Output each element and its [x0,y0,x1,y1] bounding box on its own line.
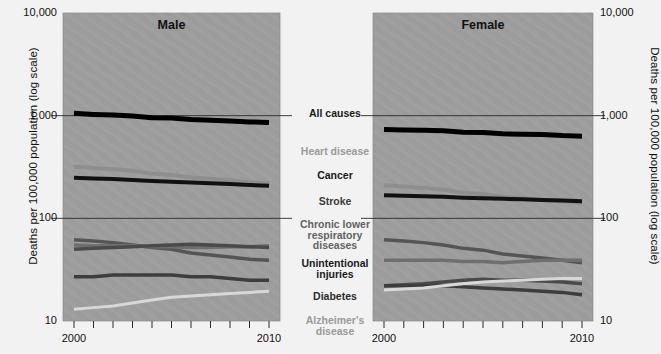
panel-title-female: Female [373,18,593,32]
y-tick-label-left-1000: 1,000 [2,109,57,121]
legend-label-heart-disease: Heart disease [283,146,387,157]
panel-title-male: Male [63,18,280,32]
legend-label-cancer: Cancer [283,170,387,181]
y-tick-label-right-10000: 10,000 [600,6,655,18]
legend-label-all-causes: All causes [283,108,387,119]
left-axis-title: Deaths per 100,000 population (log scale… [27,31,39,281]
legend-label-stroke: Stroke [283,196,387,207]
y-tick-label-right-10: 10 [600,314,655,326]
legend-label-alzheimer-s-disease: Alzheimer's disease [283,315,387,336]
legend-label-unintentional-injuries: Unintentional injuries [283,258,387,279]
x-tick-label-2000-male: 2000 [44,332,104,344]
right-axis-title: Deaths per 100,000 population (log scale… [649,31,661,281]
y-tick-label-left-10000: 10,000 [2,6,57,18]
legend-label-chronic-lower-respiratory-diseases: Chronic lower respiratory diseases [283,219,387,251]
x-tick-label-2010-female: 2010 [552,332,612,344]
y-tick-label-right-1000: 1,000 [600,109,655,121]
y-tick-label-left-10: 10 [2,314,57,326]
y-tick-label-left-100: 100 [2,211,57,223]
legend-label-diabetes: Diabetes [283,291,387,302]
y-tick-label-right-100: 100 [600,211,655,223]
